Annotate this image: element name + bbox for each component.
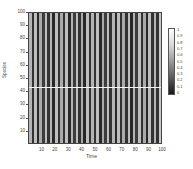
x-tick-label: 70 bbox=[116, 147, 128, 152]
x-tick-label: 30 bbox=[62, 147, 74, 152]
x-tick-label: 20 bbox=[49, 147, 61, 152]
colorbar-tick-label: 0.1 bbox=[177, 84, 183, 89]
y-tick-mark bbox=[26, 65, 28, 66]
colorbar-tick-label: 0.2 bbox=[177, 77, 183, 82]
y-axis-label: Species bbox=[2, 62, 7, 78]
heatmap-plot-area bbox=[28, 12, 162, 144]
colorbar-tick-label: 0.5 bbox=[177, 59, 183, 64]
y-tick-label: 100 bbox=[11, 9, 25, 14]
colorbar-tick-label: 0.4 bbox=[177, 65, 183, 70]
x-tick-label: 50 bbox=[89, 147, 101, 152]
y-tick-mark bbox=[26, 12, 28, 13]
heatmap-stripes bbox=[29, 13, 161, 143]
x-tick-label: 90 bbox=[143, 147, 155, 152]
y-tick-label: 20 bbox=[11, 115, 25, 120]
heatmap-column bbox=[159, 13, 162, 143]
y-tick-mark bbox=[26, 38, 28, 39]
y-tick-mark bbox=[26, 25, 28, 26]
y-tick-label: 90 bbox=[11, 22, 25, 27]
x-tick-label: 100 bbox=[156, 147, 168, 152]
colorbar-tick-label: 0.7 bbox=[177, 46, 183, 51]
x-tick-label: 10 bbox=[35, 147, 47, 152]
colorbar-tick-label: 0.8 bbox=[177, 40, 183, 45]
y-tick-label: 50 bbox=[11, 75, 25, 80]
y-tick-mark bbox=[26, 52, 28, 53]
y-tick-mark bbox=[26, 78, 28, 79]
colorbar-tick-label: 1 bbox=[177, 27, 179, 32]
colorbar-tick-label: 0.3 bbox=[177, 71, 183, 76]
y-tick-label: 80 bbox=[11, 35, 25, 40]
y-tick-label: 30 bbox=[11, 101, 25, 106]
x-tick-label: 60 bbox=[102, 147, 114, 152]
colorbar-tick-label: 0.6 bbox=[177, 52, 183, 57]
y-tick-mark bbox=[26, 118, 28, 119]
y-tick-label: 10 bbox=[11, 128, 25, 133]
y-tick-label: 60 bbox=[11, 62, 25, 67]
y-tick-mark bbox=[26, 91, 28, 92]
x-axis-label: Time bbox=[86, 153, 97, 159]
horizontal-reference-line bbox=[29, 87, 161, 88]
x-tick-label: 80 bbox=[129, 147, 141, 152]
colorbar-tick-label: 0 bbox=[177, 90, 179, 95]
colorbar bbox=[168, 28, 175, 95]
y-tick-label: 70 bbox=[11, 49, 25, 54]
x-tick-label: 40 bbox=[76, 147, 88, 152]
y-tick-label: 40 bbox=[11, 88, 25, 93]
colorbar-tick-label: 0.9 bbox=[177, 33, 183, 38]
y-tick-mark bbox=[26, 104, 28, 105]
y-tick-mark bbox=[26, 131, 28, 132]
